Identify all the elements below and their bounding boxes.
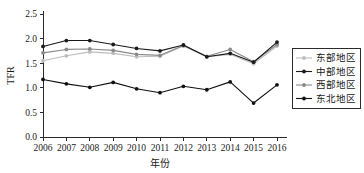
y-tick-label: 0.0 bbox=[25, 132, 37, 142]
data-point bbox=[135, 87, 139, 91]
data-point bbox=[65, 39, 69, 43]
y-tick-label: 0.5 bbox=[25, 108, 37, 118]
data-point bbox=[41, 59, 45, 63]
series-layer bbox=[41, 39, 279, 105]
x-tick-label: 2013 bbox=[197, 143, 216, 153]
data-point bbox=[158, 49, 162, 53]
data-point bbox=[111, 80, 115, 84]
data-point bbox=[275, 83, 279, 87]
y-tick-label: 2.5 bbox=[25, 9, 37, 19]
series-3 bbox=[41, 78, 279, 105]
y-axis-tick-marks bbox=[40, 14, 44, 137]
data-point bbox=[135, 47, 139, 51]
x-tick-label: 2012 bbox=[174, 143, 193, 153]
x-tick-label: 2009 bbox=[104, 143, 123, 153]
data-point bbox=[228, 51, 232, 55]
data-point bbox=[65, 48, 69, 52]
series-2 bbox=[41, 43, 279, 64]
x-tick-label: 2008 bbox=[80, 143, 99, 153]
data-point bbox=[111, 49, 115, 53]
data-point bbox=[111, 43, 115, 47]
x-tick-label: 2006 bbox=[34, 143, 53, 153]
legend-swatch-marker bbox=[302, 97, 306, 101]
legend-item-label: 东部地区 bbox=[316, 52, 356, 63]
data-point bbox=[158, 53, 162, 57]
data-point bbox=[41, 45, 45, 49]
data-point bbox=[158, 91, 162, 95]
data-point bbox=[88, 85, 92, 89]
series-1 bbox=[41, 39, 279, 64]
y-axis-tick-labels: 0.00.51.01.52.02.5 bbox=[25, 9, 37, 142]
data-point bbox=[252, 101, 256, 105]
data-point bbox=[41, 78, 45, 82]
x-tick-label: 2007 bbox=[57, 143, 76, 153]
legend-item-label: 西部地区 bbox=[316, 79, 356, 90]
x-tick-label: 2015 bbox=[244, 143, 263, 153]
data-point bbox=[41, 51, 45, 55]
legend-item-label: 中部地区 bbox=[316, 66, 356, 77]
y-tick-label: 1.0 bbox=[25, 83, 37, 93]
tfr-line-chart: 0.00.51.01.52.02.5 200620072008200920102… bbox=[0, 0, 364, 173]
data-point bbox=[88, 39, 92, 43]
data-point bbox=[205, 88, 209, 92]
x-tick-label: 2016 bbox=[268, 143, 287, 153]
data-point bbox=[228, 48, 232, 52]
y-axis-title: TFR bbox=[5, 66, 16, 85]
x-tick-label: 2014 bbox=[221, 143, 240, 153]
x-tick-label: 2011 bbox=[151, 143, 170, 153]
y-tick-label: 2.0 bbox=[25, 34, 37, 44]
data-point bbox=[135, 52, 139, 56]
data-point bbox=[182, 43, 186, 47]
y-tick-label: 1.5 bbox=[25, 59, 37, 69]
chart-canvas: 0.00.51.01.52.02.5 200620072008200920102… bbox=[0, 0, 364, 173]
data-point bbox=[88, 47, 92, 51]
x-axis-title: 年份 bbox=[150, 157, 170, 169]
data-point bbox=[205, 55, 209, 59]
legend-swatch-marker bbox=[302, 83, 306, 87]
data-point bbox=[228, 80, 232, 84]
data-point bbox=[252, 60, 256, 64]
data-point bbox=[65, 54, 69, 58]
data-point bbox=[275, 40, 279, 44]
legend-item-label: 东北地区 bbox=[316, 93, 356, 104]
x-axis-tick-labels: 2006200720082009201020112012201320142015… bbox=[34, 143, 287, 153]
legend-swatch-marker bbox=[302, 56, 306, 60]
data-point bbox=[65, 82, 69, 86]
x-axis-tick-marks bbox=[43, 137, 277, 141]
legend-swatch-marker bbox=[302, 70, 306, 74]
x-tick-label: 2010 bbox=[127, 143, 146, 153]
data-point bbox=[182, 84, 186, 88]
